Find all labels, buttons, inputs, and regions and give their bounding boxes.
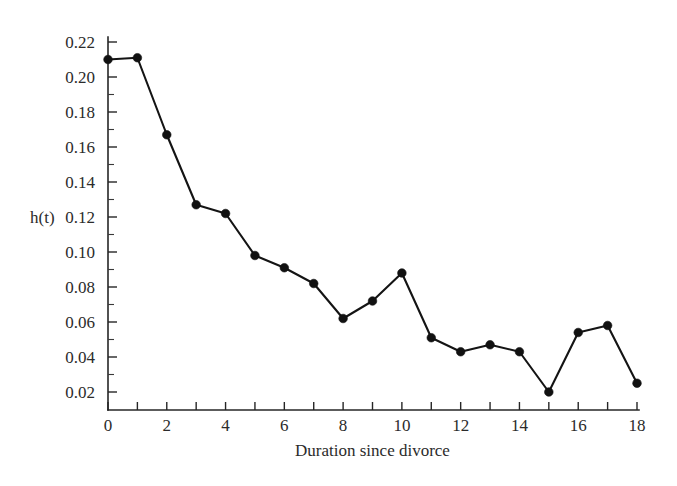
data-point-marker [280, 263, 289, 272]
y-axis-tick-label: 0.12 [65, 208, 95, 227]
data-point-marker [221, 209, 230, 218]
y-axis-tick-label: 0.22 [65, 33, 95, 52]
x-axis-tick-label: 14 [511, 416, 529, 435]
y-axis-tick-label: 0.06 [65, 313, 95, 332]
y-axis-tick-label: 0.16 [65, 138, 95, 157]
x-axis-tick-label: 18 [629, 416, 646, 435]
data-point-marker [339, 314, 348, 323]
hazard-function-figure: 0.020.040.060.080.100.120.140.160.180.20… [0, 0, 677, 486]
y-axis-tick-label: 0.10 [65, 243, 95, 262]
x-axis-title: Duration since divorce [295, 441, 450, 460]
data-point-marker [368, 297, 377, 306]
x-axis-tick-label: 12 [452, 416, 469, 435]
x-axis-tick-label: 6 [280, 416, 289, 435]
data-point-marker [309, 279, 318, 288]
data-point-marker [545, 388, 554, 397]
data-point-marker [603, 321, 612, 330]
chart-background [0, 0, 677, 486]
data-point-marker [633, 379, 642, 388]
data-point-marker [133, 53, 142, 62]
x-axis-tick-label: 4 [221, 416, 230, 435]
y-axis-title: h(t) [30, 208, 55, 227]
data-point-marker [251, 251, 260, 260]
data-point-marker [456, 347, 465, 356]
y-axis-tick-label: 0.18 [65, 103, 95, 122]
data-point-marker [104, 55, 113, 64]
data-point-marker [398, 269, 407, 278]
data-point-marker [574, 328, 583, 337]
x-axis-tick-label: 10 [393, 416, 410, 435]
y-axis-tick-label: 0.04 [65, 348, 95, 367]
y-axis-tick-label: 0.02 [65, 383, 95, 402]
x-axis-tick-label: 0 [104, 416, 113, 435]
x-axis-tick-label: 2 [163, 416, 172, 435]
y-axis-tick-label: 0.20 [65, 68, 95, 87]
data-point-marker [515, 347, 524, 356]
data-point-marker [192, 200, 201, 209]
y-axis-tick-label: 0.08 [65, 278, 95, 297]
data-point-marker [486, 340, 495, 349]
data-point-marker [162, 130, 171, 139]
y-axis-tick-label: 0.14 [65, 173, 95, 192]
data-point-marker [427, 333, 436, 342]
line-chart: 0.020.040.060.080.100.120.140.160.180.20… [0, 0, 677, 486]
x-axis-tick-label: 16 [570, 416, 587, 435]
x-axis-tick-label: 8 [339, 416, 348, 435]
